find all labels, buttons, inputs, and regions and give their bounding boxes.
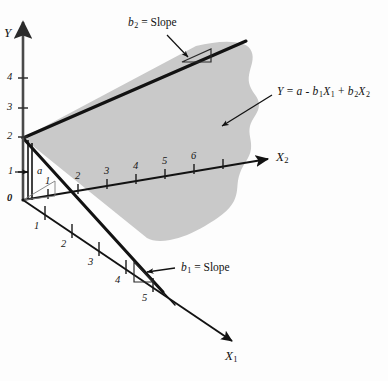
- x2-tick-label-5: 5: [162, 156, 167, 167]
- x2-tick-label-4: 4: [133, 161, 138, 172]
- x1-tick-label-5: 5: [142, 293, 147, 304]
- regression-equation-label: Y = a - b1X1 + b2X2: [277, 86, 370, 99]
- x1-tick-label-3: 3: [88, 257, 93, 268]
- equation-coef2: b: [348, 85, 354, 97]
- y-tick-label-2: 2: [7, 131, 12, 142]
- intercept-label-a: a: [37, 166, 42, 177]
- y-axis: [18, 22, 28, 200]
- slope-b2-symbol: b: [128, 16, 134, 28]
- x1-tick-label-2: 2: [61, 239, 66, 250]
- x1-tick-label-4: 4: [115, 275, 120, 286]
- equation-op1: -: [305, 85, 309, 97]
- origin-point: [21, 198, 24, 201]
- slope-b2-subscript: 2: [134, 21, 139, 30]
- equation-term-a: a: [296, 85, 302, 97]
- equation-equals: =: [287, 85, 294, 97]
- slope-b2-equals: = Slope: [141, 16, 177, 28]
- equation-coef1: b: [313, 85, 319, 97]
- x2-axis-label: X2: [276, 150, 289, 165]
- equation-op2: +: [338, 85, 345, 97]
- slope-b2-label: b2 = Slope: [128, 17, 177, 30]
- x2-axis-label-text: X: [276, 149, 284, 164]
- figure-canvas: [0, 0, 388, 381]
- slope-b1-label: b1 = Slope: [181, 262, 230, 275]
- y-tick-label-1: 1: [8, 166, 13, 177]
- slope-b1-subscript: 1: [187, 266, 192, 275]
- x2-tick-label-3: 3: [104, 166, 109, 177]
- slope-b1-symbol: b: [181, 261, 187, 273]
- y-tick-label-4: 4: [7, 72, 12, 83]
- slope-b1-equals: = Slope: [194, 261, 230, 273]
- slope-b2-pointer: [167, 35, 188, 57]
- x1-axis-label-text: X: [225, 348, 233, 363]
- x2-axis-label-sub: 2: [284, 155, 289, 165]
- y-axis-label: Y: [4, 26, 11, 39]
- equation-lhs: Y: [277, 85, 284, 97]
- slope-b1-pointer: [147, 268, 175, 272]
- regression-plane-figure: Y 4 3 2 1 0 a X2 1 2 3 4 5 6 X1 1 2 3 4 …: [0, 0, 388, 381]
- x2-tick-label-1: 1: [45, 176, 50, 187]
- y-tick-label-3: 3: [7, 102, 12, 113]
- equation-var1-sub: 1: [330, 90, 335, 99]
- x1-axis-label: X1: [225, 349, 238, 364]
- regression-plane-surface: [23, 42, 259, 241]
- x2-tick-label-2: 2: [75, 171, 80, 182]
- x2-tick-label-6: 6: [191, 151, 196, 162]
- equation-var2: X: [358, 85, 365, 97]
- y-tick-label-0: 0: [7, 193, 12, 204]
- x1-axis-label-sub: 1: [233, 354, 238, 364]
- x1-tick-label-1: 1: [34, 221, 39, 232]
- plane-fill: [23, 42, 259, 241]
- equation-var2-sub: 2: [366, 90, 371, 99]
